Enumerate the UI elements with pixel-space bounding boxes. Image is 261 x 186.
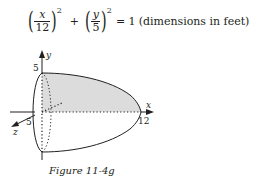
y-axis-label: y (45, 50, 52, 60)
ellipsoid-lower-edge (42, 112, 141, 152)
y-tick-5: 5 (33, 63, 39, 73)
figure-caption: Figure 11-4g (49, 165, 115, 176)
z-tick-5: 5 (26, 117, 32, 127)
half-ellipsoid-figure: y 5 x 12 5 z (0, 0, 261, 186)
z-axis-label: z (12, 127, 18, 137)
x-tick-12: 12 (138, 116, 149, 126)
x-axis-label: x (146, 100, 151, 110)
y-axis-arrow-icon (39, 50, 45, 58)
